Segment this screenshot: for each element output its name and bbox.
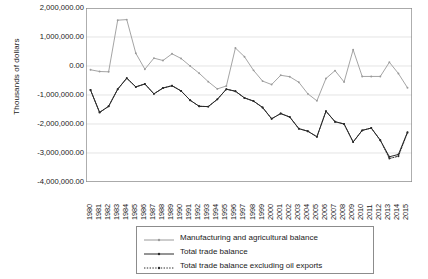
series-marker — [289, 116, 291, 118]
x-axis-tick: 2004 — [302, 204, 311, 220]
chart-legend: Manufacturing and agricultural balanceTo… — [136, 226, 374, 274]
x-axis-tick: 2005 — [311, 204, 320, 220]
chart-svg — [86, 8, 412, 182]
series-marker — [253, 100, 255, 102]
series-marker — [397, 73, 399, 75]
series-marker — [216, 98, 218, 100]
series-marker — [370, 75, 372, 77]
series-marker — [262, 80, 264, 82]
x-axis-tick: 1992 — [193, 204, 202, 220]
x-axis-tick: 2009 — [347, 204, 356, 220]
series-marker — [90, 69, 92, 71]
y-axis-tick: -1,000,000.00 — [6, 90, 84, 99]
legend-item: Manufacturing and agricultural balance — [142, 231, 368, 245]
series-marker — [298, 128, 300, 130]
series-marker — [407, 132, 409, 134]
x-axis-tick: 1983 — [112, 204, 121, 220]
x-axis-tick: 2006 — [320, 204, 329, 220]
series-marker — [216, 88, 218, 90]
series-marker — [99, 111, 101, 113]
series-marker — [325, 78, 327, 80]
legend-label: Total trade balance excluding oil export… — [180, 260, 322, 272]
series-marker — [316, 136, 318, 138]
x-axis-tick-labels: 1980198119821983198419851986198719881989… — [86, 184, 412, 220]
series-marker — [207, 106, 209, 108]
series-marker — [234, 90, 236, 92]
x-axis-tick: 1985 — [130, 204, 139, 220]
plot-area — [86, 8, 412, 182]
series-marker — [280, 113, 282, 115]
x-axis-tick: 1980 — [85, 204, 94, 220]
series-marker — [271, 118, 273, 120]
series-marker — [307, 130, 309, 132]
series-marker — [153, 57, 155, 59]
series-marker — [334, 70, 336, 72]
x-axis-tick: 1988 — [157, 204, 166, 220]
x-axis-tick: 1984 — [121, 204, 130, 220]
x-axis-tick: 2008 — [338, 204, 347, 220]
series-marker — [126, 19, 128, 21]
series-marker — [325, 110, 327, 112]
series-marker — [307, 93, 309, 95]
series-marker — [289, 76, 291, 78]
x-axis-tick: 1986 — [139, 204, 148, 220]
y-axis-tick: 1,000,000.00 — [6, 32, 84, 41]
x-axis-tick: 1991 — [184, 204, 193, 220]
x-axis-tick: 1990 — [175, 204, 184, 220]
legend-item: Total trade balance excluding oil export… — [142, 259, 368, 273]
series-marker — [379, 139, 381, 141]
series-marker — [189, 99, 191, 101]
series-marker — [162, 60, 164, 62]
legend-key-dotted-icon — [142, 260, 176, 272]
series-marker — [162, 87, 164, 89]
x-axis-tick: 1995 — [220, 204, 229, 220]
legend-item: Total trade balance — [142, 245, 368, 259]
series-marker — [180, 90, 182, 92]
series-marker — [352, 141, 354, 143]
series-marker — [144, 68, 146, 70]
x-axis-tick: 1987 — [148, 204, 157, 220]
legend-key-solid-icon — [142, 246, 176, 258]
series-marker — [153, 93, 155, 95]
series-marker — [280, 74, 282, 76]
series-marker — [298, 81, 300, 83]
x-axis-tick: 1994 — [211, 204, 220, 220]
series-marker — [135, 52, 137, 54]
legend-label: Manufacturing and agricultural balance — [180, 232, 318, 244]
series-marker — [343, 123, 345, 125]
x-axis-tick: 1998 — [248, 204, 257, 220]
series-marker — [198, 105, 200, 107]
series-marker — [117, 88, 119, 90]
series-marker — [316, 100, 318, 102]
legend-label: Total trade balance — [180, 246, 248, 258]
series-line — [91, 78, 408, 158]
series-marker — [271, 84, 273, 86]
series-marker — [352, 49, 354, 51]
y-axis-tick: 2,000,000.00 — [6, 3, 84, 12]
series-marker — [379, 75, 381, 77]
series-marker — [144, 83, 146, 85]
x-axis-tick: 2003 — [293, 204, 302, 220]
x-axis-tick: 2010 — [356, 204, 365, 220]
series-marker — [334, 121, 336, 123]
y-axis-tick: -4,000,000.00 — [6, 177, 84, 186]
series-marker — [99, 71, 101, 73]
x-axis-tick: 2013 — [383, 204, 392, 220]
series-marker — [126, 77, 128, 79]
x-axis-tick: 1989 — [166, 204, 175, 220]
series-marker — [253, 69, 255, 71]
series-marker — [397, 155, 399, 157]
series-marker — [108, 105, 110, 107]
series-marker — [244, 56, 246, 58]
series-marker — [388, 158, 390, 160]
series-marker — [180, 58, 182, 60]
x-axis-tick: 2007 — [329, 204, 338, 220]
series-marker — [244, 97, 246, 99]
x-axis-tick: 2000 — [266, 204, 275, 220]
y-axis-tick-labels: 2,000,000.001,000,000.000.00-1,000,000.0… — [0, 0, 84, 279]
series-marker — [135, 86, 137, 88]
x-axis-tick: 2002 — [284, 204, 293, 220]
x-axis-tick: 1997 — [238, 204, 247, 220]
series-marker — [171, 85, 173, 87]
y-axis-tick: 0.00 — [6, 61, 84, 70]
